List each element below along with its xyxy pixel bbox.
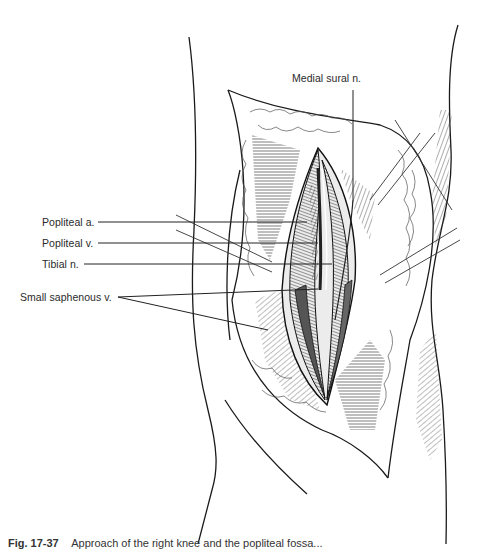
figure-caption: Fig. 17-37 Approach of the right knee an… <box>8 537 323 550</box>
figure-number: Fig. 17-37 <box>8 537 59 549</box>
label-small-saphenous-vein: Small saphenous v. <box>20 291 112 303</box>
caption-text: Approach of the right knee and the popli… <box>71 537 322 549</box>
skin-edge-right-hatch <box>432 110 452 250</box>
label-medial-sural-nerve: Medial sural n. <box>292 72 361 84</box>
label-popliteal-vein: Popliteal v. <box>42 237 93 249</box>
label-popliteal-artery: Popliteal a. <box>42 216 95 228</box>
fascia-lower-right-hatch <box>335 340 385 430</box>
label-tibial-nerve: Tibial n. <box>42 258 79 270</box>
skin-edge-lower-right-hatch <box>416 330 442 460</box>
